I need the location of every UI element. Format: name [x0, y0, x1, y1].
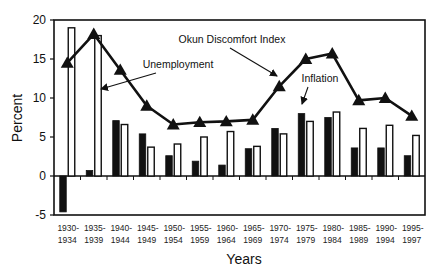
unemployment-bar: [95, 36, 102, 176]
plot-frame: [54, 20, 425, 215]
unemployment-bar: [386, 125, 393, 176]
x-tick-label: 1974: [270, 235, 289, 245]
x-tick-label: 1984: [323, 235, 342, 245]
inflation-bar: [378, 148, 385, 176]
annotation-inflation: Inflation: [302, 72, 339, 84]
x-tick-label: 1985-: [349, 223, 371, 233]
inflation-bar: [325, 118, 332, 177]
x-tick-label: 1995-: [402, 223, 424, 233]
x-tick-label: 1945-: [137, 223, 159, 233]
x-tick-label: 1979: [296, 235, 315, 245]
unemployment-bar: [148, 147, 155, 176]
y-axis: -505101520: [33, 13, 54, 222]
inflation-bar: [298, 114, 305, 176]
x-tick-label: 1934: [58, 235, 77, 245]
inflation-bar: [60, 176, 67, 212]
x-tick-label: 1940-: [110, 223, 132, 233]
unemployment-bar: [333, 112, 340, 176]
inflation-bar: [166, 156, 173, 176]
annotation-unemployment: Unemployment: [143, 58, 214, 70]
x-tick-label: 1960-: [216, 223, 238, 233]
unemployment-bar: [307, 121, 314, 176]
unemployment-bar: [413, 135, 420, 176]
x-tick-label: 1955-: [190, 223, 212, 233]
inflation-bar: [192, 161, 199, 176]
x-tick-label: 1950-: [163, 223, 185, 233]
y-axis-title: Percent: [9, 94, 25, 142]
x-tick-label: 1939: [84, 235, 103, 245]
unemployment-bar: [280, 134, 287, 176]
inflation-bar: [272, 128, 279, 176]
y-tick-label: 10: [33, 91, 47, 105]
unemployment-bar: [227, 132, 234, 176]
unemployment-bar: [121, 125, 128, 176]
x-tick-label: 1997: [402, 235, 421, 245]
x-tick-label: 1954: [164, 235, 183, 245]
x-tick-label: 1970-: [269, 223, 291, 233]
x-tick-label: 1980-: [322, 223, 344, 233]
inflation-bar: [245, 149, 252, 176]
x-tick-label: 1969: [243, 235, 262, 245]
unemployment-bar: [201, 137, 208, 176]
inflation-bar: [113, 121, 120, 176]
x-axis-title: Years: [226, 251, 261, 267]
x-tick-label: 1989: [349, 235, 368, 245]
x-tick-label: 1959: [190, 235, 209, 245]
inflation-bar: [404, 156, 411, 176]
y-tick-label: 0: [39, 169, 46, 183]
okun-chart: -505101520 1930-19341935-19391940-194419…: [0, 0, 440, 276]
x-tick-label: 1944: [111, 235, 130, 245]
x-tick-label: 1965-: [243, 223, 265, 233]
y-tick-label: 5: [39, 130, 46, 144]
unemployment-bar: [174, 144, 181, 176]
y-tick-label: 20: [33, 13, 47, 27]
y-tick-label: 15: [33, 52, 47, 66]
unemployment-bar: [68, 28, 75, 176]
x-tick-label: 1975-: [296, 223, 318, 233]
x-tick-label: 1964: [217, 235, 236, 245]
plot-area: [54, 20, 425, 215]
annotation-okun: Okun Discomfort Index: [179, 33, 287, 45]
x-tick-label: 1930-: [57, 223, 79, 233]
y-tick-label: -5: [35, 208, 46, 222]
x-tick-label: 1994: [376, 235, 395, 245]
x-tick-label: 1990-: [375, 223, 397, 233]
inflation-bar: [139, 134, 146, 176]
inflation-bar: [351, 148, 358, 176]
unemployment-bar: [360, 128, 367, 176]
unemployment-bar: [254, 146, 261, 176]
x-tick-label: 1949: [137, 235, 156, 245]
inflation-bar: [219, 165, 226, 176]
inflation-bar: [86, 171, 93, 176]
x-tick-label: 1935-: [84, 223, 106, 233]
